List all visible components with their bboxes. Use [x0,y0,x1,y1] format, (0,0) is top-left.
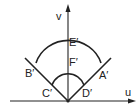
point-label-a: A′ [99,69,108,81]
u-axis-arrowhead [128,99,136,104]
point-label-e: E′ [69,36,78,48]
v-axis-arrowhead [66,4,71,12]
v-axis-label: v [56,10,62,22]
point-label-b: B′ [25,67,34,79]
point-label-d: D′ [82,87,92,99]
u-axis-label: u [125,86,131,98]
origin-point [66,99,69,102]
point-label-c: C′ [42,87,52,99]
point-label-f: F′ [69,56,78,68]
conformal-map-diagram: v u E′ F′ B′ A′ C′ D′ [0,0,139,112]
